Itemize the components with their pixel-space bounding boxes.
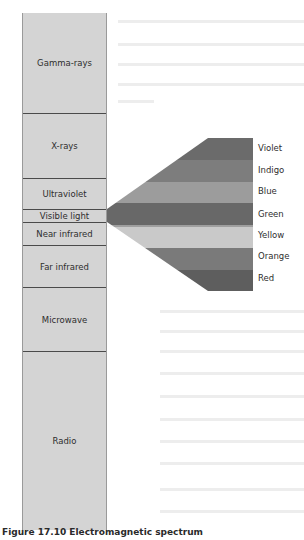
color-label-red: Red: [258, 273, 274, 283]
band-orange: [107, 248, 253, 270]
band-violet: [107, 138, 253, 160]
color-label-violet: Violet: [258, 143, 282, 153]
color-label-green: Green: [258, 209, 284, 219]
band-red: [107, 270, 253, 291]
band-blue: [107, 182, 253, 203]
band-yellow: [107, 227, 253, 248]
color-label-yellow: Yellow: [258, 230, 284, 240]
color-label-blue: Blue: [258, 186, 277, 196]
color-label-orange: Orange: [258, 251, 289, 261]
band-green: [107, 203, 253, 227]
color-label-indigo: Indigo: [258, 165, 284, 175]
visible-spectrum-fan: [0, 0, 304, 540]
band-indigo: [107, 160, 253, 182]
figure-caption: Figure 17.10 Electromagnetic spectrum: [2, 527, 203, 537]
